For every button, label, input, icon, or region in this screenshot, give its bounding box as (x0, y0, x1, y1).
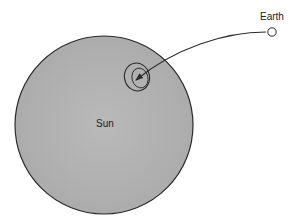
sun-label: Sun (96, 119, 114, 129)
earth-circle (268, 28, 276, 36)
sun-earth-diagram (0, 0, 296, 223)
earth-label: Earth (260, 12, 284, 22)
